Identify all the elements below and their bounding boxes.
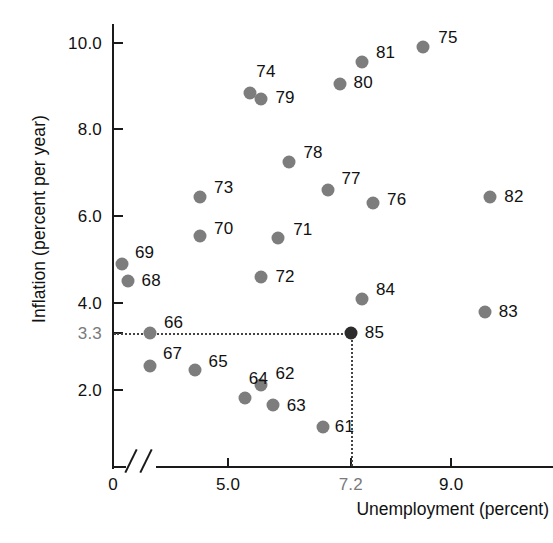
data-point-65[interactable] [188,364,201,377]
y-tick-4.0 [114,302,123,304]
data-point-label-84: 84 [376,281,395,298]
data-point-84[interactable] [355,292,368,305]
x-tick-label-5.0: 5.0 [198,476,258,493]
data-point-70[interactable] [194,229,207,242]
data-point-label-71: 71 [293,221,312,238]
y-tick-6.0 [114,215,123,217]
data-point-79[interactable] [255,93,268,106]
data-point-78[interactable] [283,155,296,168]
y-tick-label-10.0: 10.0 [34,35,102,52]
data-point-76[interactable] [367,197,380,210]
data-point-73[interactable] [194,190,207,203]
data-point-71[interactable] [272,231,285,244]
data-point-label-76: 76 [387,191,406,208]
data-point-label-61: 61 [335,418,354,435]
y-tick-10.0 [114,42,123,44]
data-point-label-74: 74 [256,63,275,80]
x-tick-9.0 [450,458,452,467]
data-point-label-78: 78 [303,144,322,161]
vertical-reference-line [351,333,353,466]
x-axis-line [112,466,553,468]
data-point-label-83: 83 [499,303,518,320]
y-tick-label-4.0: 4.0 [34,295,102,312]
x-axis-title: Unemployment (percent) [293,500,549,518]
y-tick-8.0 [114,128,123,130]
data-point-label-68: 68 [142,272,161,289]
data-point-label-77: 77 [341,170,360,187]
data-point-label-79: 79 [275,89,294,106]
data-point-label-82: 82 [504,188,523,205]
data-point-label-73: 73 [214,179,233,196]
data-point-75[interactable] [417,40,430,53]
data-point-63[interactable] [266,398,279,411]
data-point-label-66: 66 [164,314,183,331]
y-tick-label-8.0: 8.0 [34,121,102,138]
x-tick-5.0 [227,458,229,467]
y-tick-label-3.3: 3.3 [34,325,102,342]
data-point-label-80: 80 [354,74,373,91]
data-point-77[interactable] [322,184,335,197]
data-point-label-70: 70 [214,220,233,237]
data-point-66[interactable] [143,327,156,340]
data-point-label-63: 63 [287,397,306,414]
data-point-80[interactable] [333,77,346,90]
data-point-label-64: 64 [249,370,268,387]
data-point-label-75: 75 [438,29,457,46]
data-point-81[interactable] [355,56,368,69]
data-point-72[interactable] [255,270,268,283]
x-tick-label-0: 0 [83,476,143,493]
data-point-68[interactable] [121,275,134,288]
data-point-label-62: 62 [275,365,294,382]
y-tick-2.0 [114,389,123,391]
x-tick-label-7.2: 7.2 [321,476,381,493]
data-point-label-81: 81 [376,44,395,61]
data-point-82[interactable] [484,190,497,203]
axis-break-icon [124,448,158,474]
data-point-label-72: 72 [275,268,294,285]
data-point-label-69: 69 [135,244,154,261]
data-point-64[interactable] [238,392,251,405]
data-point-label-65: 65 [209,353,228,370]
y-tick-label-6.0: 6.0 [34,208,102,225]
data-point-label-67: 67 [163,345,182,362]
data-point-67[interactable] [143,359,156,372]
data-point-label-85: 85 [365,324,384,341]
y-tick-label-2.0: 2.0 [34,382,102,399]
scatter-plot: Inflation (percent per year) Unemploymen… [0,0,553,543]
data-point-61[interactable] [316,420,329,433]
x-tick-label-9.0: 9.0 [421,476,481,493]
data-point-83[interactable] [478,305,491,318]
y-axis-line [112,24,114,469]
data-point-85[interactable] [344,327,357,340]
data-point-69[interactable] [115,257,128,270]
